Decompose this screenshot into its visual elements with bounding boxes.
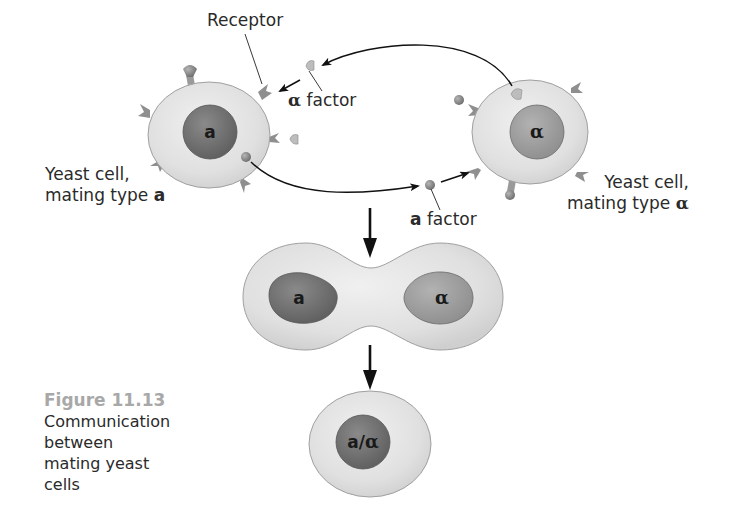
left-cell-line1: Yeast cell, xyxy=(45,164,165,185)
right-cell-label: Yeast cell, mating type α xyxy=(567,172,689,214)
nucleus-a-alpha-label: a/α xyxy=(347,431,379,452)
fusing-cells: a α xyxy=(243,243,503,350)
nucleus-alpha-label: α xyxy=(530,121,544,142)
nucleus-a-label: a xyxy=(293,288,304,308)
nucleus-alpha-label: α xyxy=(435,287,449,308)
left-cell-label: Yeast cell, mating type a xyxy=(45,164,165,206)
figure-number: Figure 11.13 xyxy=(44,390,165,410)
left-cell-line2: mating type a xyxy=(45,185,165,206)
receptor-label: Receptor xyxy=(207,10,283,31)
figure-caption: Communication between mating yeast cells xyxy=(44,411,174,495)
alpha-factor-arrow xyxy=(323,45,512,86)
receptor-pointer xyxy=(245,34,262,84)
a-factor-icon xyxy=(454,95,464,105)
alpha-factor-pointer xyxy=(309,71,322,91)
right-cell-line2: mating type α xyxy=(567,193,689,214)
alpha-factor-icon xyxy=(290,135,298,145)
right-cell-line1: Yeast cell, xyxy=(567,172,689,193)
a-factor-arrow xyxy=(251,162,418,192)
diploid-cell: a/α xyxy=(309,391,431,497)
alpha-factor-label: α factor xyxy=(288,90,356,111)
alpha-factor-icon xyxy=(306,61,314,71)
nucleus-a-label: a xyxy=(204,122,215,142)
a-factor-icon xyxy=(425,180,435,190)
a-factor-pointer xyxy=(431,189,440,210)
a-factor-label: a factor xyxy=(410,209,477,230)
a-factor-icon xyxy=(241,152,251,162)
a-factor-arrow xyxy=(441,173,468,182)
